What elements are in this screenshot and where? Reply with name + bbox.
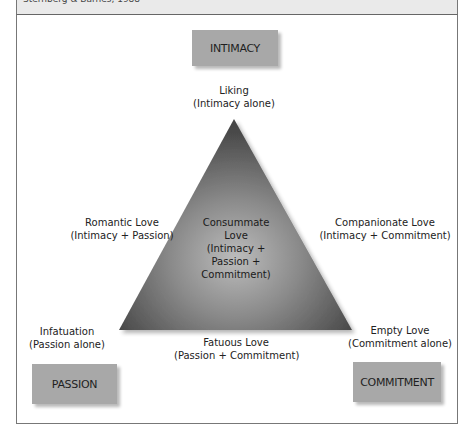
liking-formula: (Intimacy alone) bbox=[184, 97, 284, 110]
companionate-love-formula: (Intimacy + Commitment) bbox=[310, 229, 460, 242]
commitment-box: COMMITMENT bbox=[353, 362, 441, 402]
consummate-line-3: (Intimacy + bbox=[196, 242, 276, 255]
empty-love-name: Empty Love bbox=[345, 324, 455, 337]
consummate-line-5: Commitment) bbox=[196, 268, 276, 281]
intimacy-box: INTIMACY bbox=[192, 30, 278, 66]
passion-box: PASSION bbox=[32, 364, 117, 404]
liking-label: Liking (Intimacy alone) bbox=[184, 84, 284, 110]
consummate-line-4: Passion + bbox=[196, 255, 276, 268]
romantic-love-label: Romantic Love (Intimacy + Passion) bbox=[62, 216, 182, 242]
intimacy-label: INTIMACY bbox=[210, 42, 260, 55]
commitment-label: COMMITMENT bbox=[360, 376, 434, 389]
consummate-love-label: Consummate Love (Intimacy + Passion + Co… bbox=[196, 216, 276, 281]
consummate-line-1: Consummate bbox=[196, 216, 276, 229]
fatuous-love-name: Fatuous Love bbox=[174, 336, 298, 349]
empty-love-label: Empty Love (Commitment alone) bbox=[345, 324, 455, 350]
infatuation-label: Infatuation (Passion alone) bbox=[22, 325, 112, 351]
infatuation-formula: (Passion alone) bbox=[22, 338, 112, 351]
romantic-love-name: Romantic Love bbox=[62, 216, 182, 229]
infatuation-name: Infatuation bbox=[22, 325, 112, 338]
passion-label: PASSION bbox=[52, 378, 97, 391]
companionate-love-label: Companionate Love (Intimacy + Commitment… bbox=[310, 216, 460, 242]
fatuous-love-formula: (Passion + Commitment) bbox=[174, 349, 298, 362]
empty-love-formula: (Commitment alone) bbox=[345, 337, 455, 350]
romantic-love-formula: (Intimacy + Passion) bbox=[62, 229, 182, 242]
companionate-love-name: Companionate Love bbox=[310, 216, 460, 229]
liking-name: Liking bbox=[184, 84, 284, 97]
fatuous-love-label: Fatuous Love (Passion + Commitment) bbox=[174, 336, 298, 362]
consummate-line-2: Love bbox=[196, 229, 276, 242]
